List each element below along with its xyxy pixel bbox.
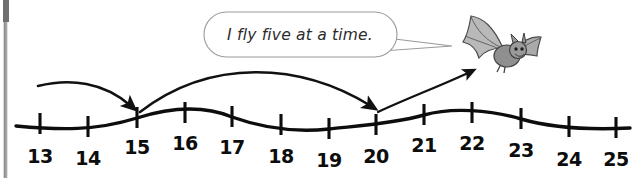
bat-eye-left bbox=[514, 47, 517, 50]
worksheet-canvas: 13141516171819202122232425 I fly five at… bbox=[0, 0, 641, 178]
bat-eye-right bbox=[520, 47, 523, 50]
bat-ear-right bbox=[522, 33, 526, 43]
bat-illustration bbox=[0, 0, 641, 178]
bat-ear-left bbox=[511, 34, 518, 43]
